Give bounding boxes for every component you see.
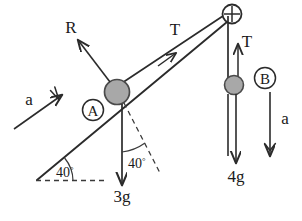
tension-hanging-label: T — [242, 32, 253, 51]
normal-reaction-label: R — [65, 18, 77, 37]
incline-base-angle-label: 40° — [56, 165, 74, 180]
block-b — [225, 76, 244, 95]
weight-incline-angle-unit: ° — [142, 156, 146, 166]
tension-incline-arrow — [158, 53, 176, 66]
acceleration-a-label: a — [25, 90, 33, 109]
normal-reaction-arrow — [78, 40, 110, 82]
block-a — [105, 80, 130, 105]
acceleration-a-second-arrowhead — [51, 87, 59, 100]
block-b-label: B — [260, 71, 270, 87]
block-a-label: A — [88, 103, 99, 119]
acceleration-a-arrow — [14, 95, 62, 129]
acceleration-b-label: a — [281, 109, 289, 128]
incline-base-angle-value: 40 — [56, 165, 70, 180]
weight-b-label: 4g — [228, 167, 246, 186]
physics-diagram: A B R T T 3g 4g a a 40° 40° — [0, 0, 302, 221]
tension-incline-label: T — [170, 20, 181, 39]
weight-a-label: 3g — [114, 187, 132, 206]
weight-incline-angle-arc — [122, 143, 145, 152]
incline-base-angle-unit: ° — [70, 165, 74, 175]
weight-incline-angle-label: 40° — [128, 156, 146, 171]
diagram-canvas: A B R T T 3g 4g a a 40° 40° — [0, 0, 302, 221]
weight-incline-angle-value: 40 — [128, 156, 142, 171]
